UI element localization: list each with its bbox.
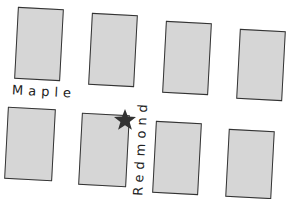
city-block-top-2 <box>88 13 138 87</box>
city-block-bottom-4 <box>225 129 274 199</box>
city-block-bottom-1 <box>4 107 56 181</box>
city-block-top-4 <box>236 29 286 101</box>
city-block-bottom-3 <box>152 121 202 195</box>
city-block-top-1 <box>14 7 64 81</box>
street-map: Maple Redmond <box>0 0 289 199</box>
city-block-top-3 <box>162 21 212 95</box>
street-label-maple: Maple <box>12 82 77 100</box>
star-landmark-icon <box>113 108 137 132</box>
